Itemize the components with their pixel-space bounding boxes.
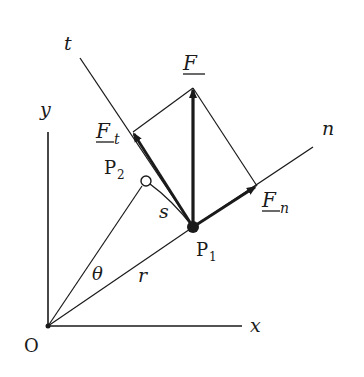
construction-line-top-right bbox=[193, 88, 257, 186]
label-n-axis: n bbox=[322, 117, 334, 139]
label-arc-s: s bbox=[159, 200, 169, 222]
label-x-axis: x bbox=[250, 314, 261, 336]
label-point1-sub: 1 bbox=[209, 250, 217, 264]
label-t-axis: t bbox=[64, 32, 72, 54]
label-point2-sub: 2 bbox=[117, 168, 125, 182]
path-curve-s bbox=[150, 184, 193, 227]
point-p1 bbox=[187, 221, 199, 233]
construction-line-top-left bbox=[133, 88, 193, 132]
label-force-normal: F bbox=[261, 188, 277, 212]
force-diagram: O x y t n F F t F n P 1 P 2 s θ r bbox=[0, 0, 364, 377]
label-force-tangential-sub: t bbox=[114, 131, 120, 147]
label-force-normal-sub: n bbox=[280, 200, 289, 216]
point-p2 bbox=[141, 176, 151, 186]
label-force-tangential: F bbox=[95, 119, 111, 143]
label-angle-theta: θ bbox=[92, 263, 103, 284]
label-point2: P bbox=[104, 157, 116, 178]
label-point1: P bbox=[196, 239, 208, 260]
label-y-axis: y bbox=[39, 98, 51, 120]
radius-line-p1 bbox=[48, 227, 193, 326]
label-radius-r: r bbox=[138, 264, 149, 286]
label-origin: O bbox=[24, 335, 39, 356]
label-force: F bbox=[182, 51, 198, 75]
force-vector-Fn bbox=[193, 187, 255, 227]
radius-line-p2 bbox=[48, 186, 142, 326]
